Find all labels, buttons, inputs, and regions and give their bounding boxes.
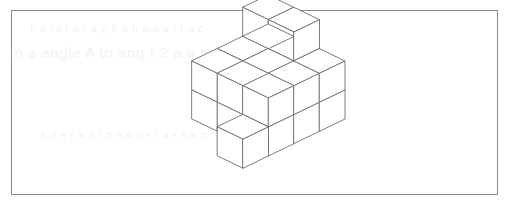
isometric-cube-block-diagram (0, 0, 510, 213)
screenshot-root: b o ra t o r a g b s n a o s t r a o n a… (0, 0, 510, 213)
block-figure-svg (0, 0, 510, 213)
iso-faces-group (192, 0, 345, 168)
